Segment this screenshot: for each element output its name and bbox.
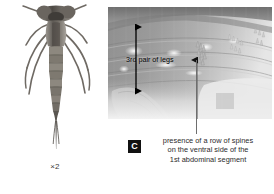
dragonfly-larva-illustration [6, 2, 104, 162]
caption-line-3: 1st abdominal segment [148, 155, 268, 164]
dragonfly-larva-image [6, 2, 104, 162]
magnification-label: ×2 [6, 162, 104, 171]
closeup-photo-panel: 3rd pair of legs [108, 7, 272, 119]
caption-text: presence of a row of spines on the ventr… [148, 136, 268, 164]
caption-line-2: on the ventral side of the [148, 145, 268, 154]
specimen-panel: ×2 [6, 2, 104, 162]
legs-measure-label: 3rd pair of legs [126, 55, 174, 64]
caption-block: C presence of a row of spines on the ven… [126, 136, 268, 176]
caption-line-1: presence of a row of spines [148, 136, 268, 145]
caption-badge-c: C [128, 140, 141, 153]
caption-leader-line [196, 60, 197, 134]
